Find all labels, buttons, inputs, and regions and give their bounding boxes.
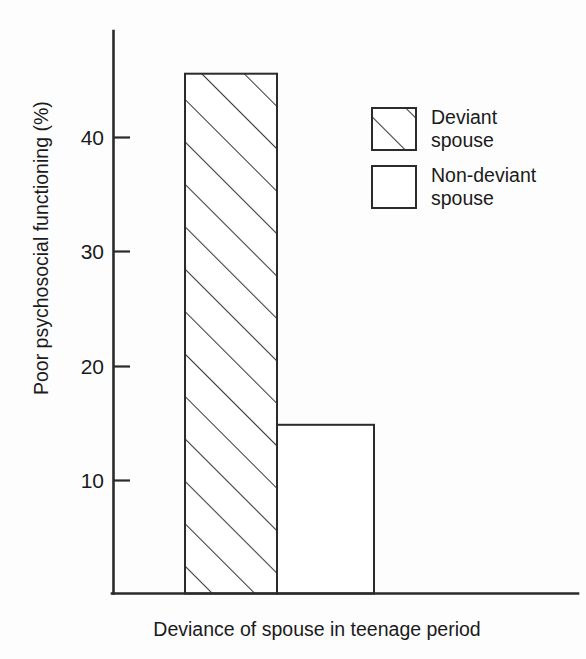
bar-non-deviant-spouse [277,425,374,594]
y-tick-label-20: 20 [81,355,104,378]
legend-item-non-deviant-spouse-label-line2: spouse [431,187,494,209]
bar-deviant-spouse-rect [185,74,277,594]
chart-canvas: 40 30 20 10 Poor psychosocial functionin… [0,0,586,659]
y-tick-label-40: 40 [81,126,104,149]
empty-square-icon [372,166,416,208]
legend-item-deviant-spouse: Deviant spouse [372,106,498,151]
y-axis-title: Poor psychosocial functioning (%) [30,101,52,395]
bar-non-deviant-spouse-rect [277,425,374,594]
chart-figure: 40 30 20 10 Poor psychosocial functionin… [0,0,586,659]
legend-item-non-deviant-spouse-label-line1: Non-deviant [431,164,537,186]
legend-item-deviant-spouse-label-line2: spouse [431,129,494,151]
bar-deviant-spouse [185,74,277,594]
y-tick-label-10: 10 [81,469,104,492]
y-tick-label-30: 30 [81,240,104,263]
hatched-square-icon [372,108,416,150]
x-axis-title: Deviance of spouse in teenage period [153,618,480,640]
legend-item-deviant-spouse-label-line1: Deviant [431,106,498,128]
